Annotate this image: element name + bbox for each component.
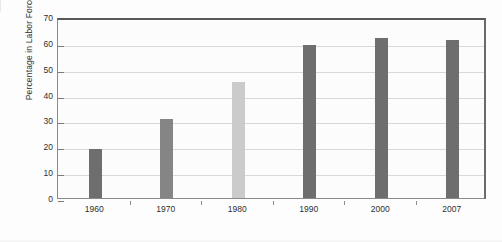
y-tick-label: 50 (19, 65, 53, 75)
x-tick-label: 1970 (141, 204, 191, 214)
x-axis-labels: 196019701980199020002007 (57, 0, 486, 242)
x-tick-label: 1980 (212, 204, 262, 214)
y-tick-label: 20 (19, 142, 53, 152)
y-tick-label: 10 (19, 168, 53, 178)
x-tick-label: 1990 (284, 204, 334, 214)
y-tick-label: 70 (19, 13, 53, 23)
y-tick-label: 30 (19, 116, 53, 126)
y-tick-label: 40 (19, 91, 53, 101)
y-tick-label: 0 (19, 194, 53, 204)
x-tick-label: 2000 (355, 204, 405, 214)
x-tick-label: 2007 (427, 204, 477, 214)
y-tick-label: 60 (19, 39, 53, 49)
x-tick-label: 1960 (69, 204, 119, 214)
y-axis: 010203040506070 (13, 18, 53, 199)
bar-chart: Percentage in Labor Force 01020304050607… (0, 0, 502, 242)
